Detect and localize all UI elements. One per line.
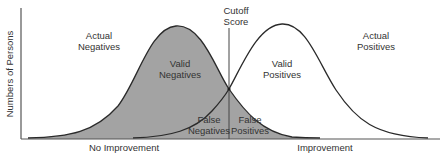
valid-negatives-line2: Negatives: [159, 69, 201, 80]
actual-negatives-line2: Negatives: [78, 41, 120, 52]
valid-negatives-line1: Valid: [159, 58, 201, 69]
valid-positives-line2: Positives: [263, 69, 301, 80]
x-axis-left-label: No Improvement: [89, 142, 159, 153]
cutoff-score-label: Cutoff Score: [223, 5, 248, 27]
x-axis-right-label: Improvement: [297, 142, 352, 153]
intersection-point: [227, 87, 230, 90]
false-positives-line1: False: [231, 114, 269, 125]
actual-negatives-label: Actual Negatives: [78, 30, 120, 52]
cutoff-label-line2: Score: [223, 16, 248, 27]
actual-positives-label: Actual Positives: [357, 30, 395, 52]
selection-decision-diagram: Numbers of Persons Cutoff Score Actual N…: [0, 0, 444, 157]
valid-negatives-label: Valid Negatives: [159, 58, 201, 80]
false-negatives-line1: False: [188, 114, 230, 125]
actual-positives-line1: Actual: [357, 30, 395, 41]
actual-positives-line2: Positives: [357, 41, 395, 52]
actual-negatives-fill: [28, 26, 320, 139]
valid-positives-line1: Valid: [263, 58, 301, 69]
valid-positives-label: Valid Positives: [263, 58, 301, 80]
false-positives-line2: Positives: [231, 125, 269, 136]
actual-negatives-line1: Actual: [78, 30, 120, 41]
false-negatives-label: False Negatives: [188, 114, 230, 136]
false-negatives-line2: Negatives: [188, 125, 230, 136]
y-axis-label: Numbers of Persons: [4, 31, 15, 118]
false-positives-label: False Positives: [231, 114, 269, 136]
cutoff-label-line1: Cutoff: [223, 5, 248, 16]
